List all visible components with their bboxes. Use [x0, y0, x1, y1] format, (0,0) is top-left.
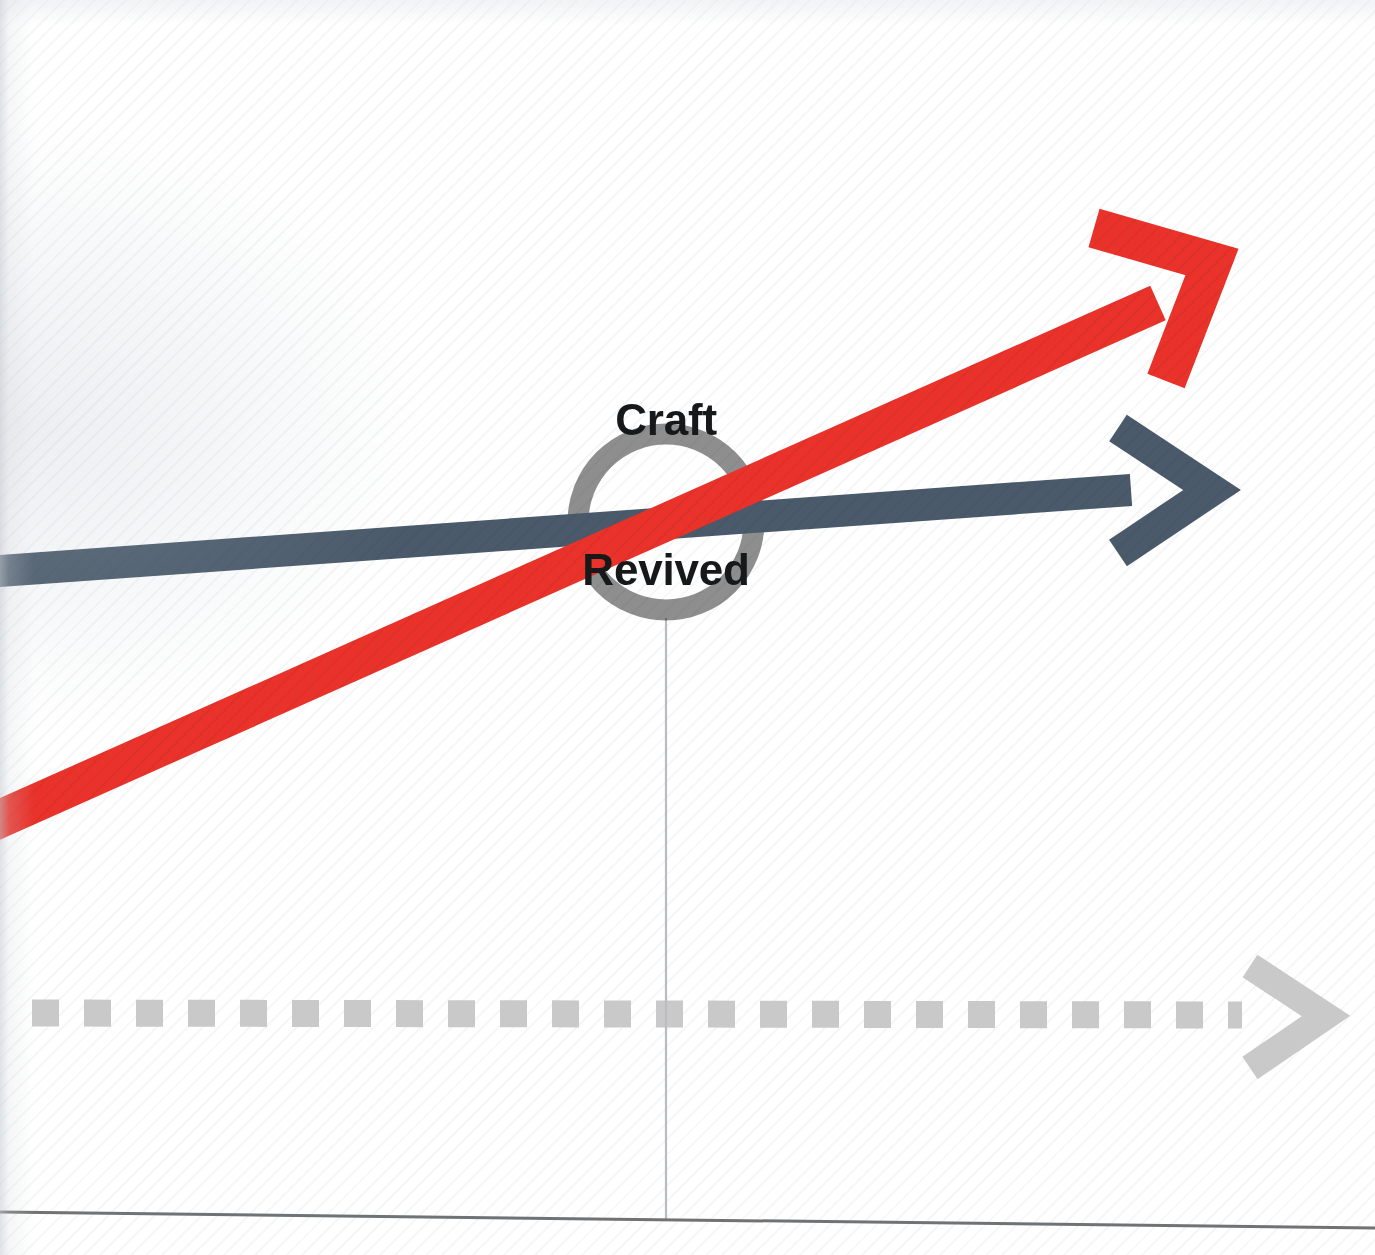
- x-axis-baseline: [0, 1212, 1375, 1228]
- slate-trend-arrowhead-icon: [1118, 428, 1212, 553]
- dashed-reference-line: [32, 1013, 1242, 1015]
- dashed-reference-arrowhead-icon: [1250, 966, 1326, 1068]
- annotation-label: Craft Revived: [486, 296, 846, 694]
- annotation-label-line2: Revived: [486, 545, 846, 595]
- series-declining-reference: [32, 966, 1326, 1068]
- diagram-canvas: Craft Revived: [0, 0, 1375, 1255]
- annotation-label-line1: Craft: [486, 395, 846, 445]
